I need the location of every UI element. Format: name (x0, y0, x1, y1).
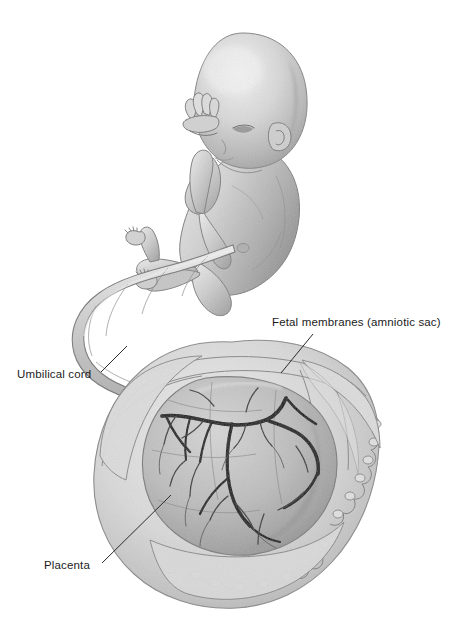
umbilicus (237, 244, 249, 253)
label-fetal-membranes: Fetal membranes (amniotic sac) (272, 316, 441, 329)
fetal-hands (183, 93, 219, 136)
label-umbilical-cord: Umbilical cord (17, 368, 91, 381)
medical-illustration-figure: Fetal membranes (amniotic sac) Umbilical… (0, 0, 454, 639)
placenta-disc (143, 377, 337, 556)
head-highlight (203, 46, 263, 94)
label-placenta: Placenta (44, 559, 90, 572)
fetal-ear (268, 123, 291, 151)
